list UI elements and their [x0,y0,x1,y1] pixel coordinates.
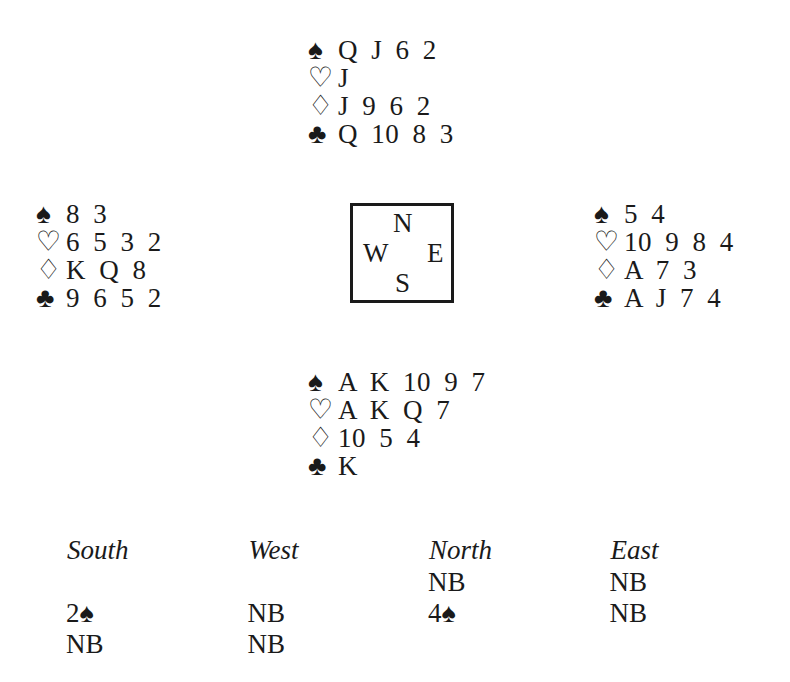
auction-row: 2♠ NB 4♠ NB [66,598,790,629]
compass-east: E [427,238,444,269]
bid: NB [66,629,247,660]
west-hand: ♠8 3 ♡6 5 3 2 ♢K Q 8 ♣9 6 5 2 [36,200,162,312]
south-clubs: K [338,452,358,480]
heart-icon: ♡ [36,228,66,256]
compass-west: W [363,238,388,269]
north-hand: ♠Q J 6 2 ♡J ♢J 9 6 2 ♣Q 10 8 3 [308,36,454,148]
north-hearts: J [338,64,349,92]
club-icon: ♣ [308,120,338,148]
diamond-icon: ♢ [308,92,338,120]
north-diamonds: J 9 6 2 [338,92,431,120]
bid [66,567,247,598]
east-clubs: A J 7 4 [624,284,721,312]
bid: 4♠ [428,598,610,629]
bid: NB [610,598,790,629]
spade-icon: ♠ [308,36,338,64]
header-south: South [66,534,247,567]
auction-header: South West North East [66,534,790,567]
bid: NB [428,567,610,598]
auction-row: NB NB [66,629,790,660]
header-west: West [247,534,428,567]
east-hearts: 10 9 8 4 [624,228,734,256]
bid [428,629,610,660]
compass-box: N W E S [350,203,454,303]
heart-icon: ♡ [594,228,624,256]
auction-table: South West North East NB NB 2♠ NB 4♠ NB … [66,534,790,660]
diamond-icon: ♢ [308,424,338,452]
spade-icon: ♠ [594,200,624,228]
west-clubs: 9 6 5 2 [66,284,162,312]
diamond-icon: ♢ [594,256,624,284]
header-east: East [610,534,790,567]
west-hearts: 6 5 3 2 [66,228,162,256]
west-spades: 8 3 [66,200,107,228]
east-diamonds: A 7 3 [624,256,697,284]
header-north: North [428,534,610,567]
club-icon: ♣ [36,284,66,312]
club-icon: ♣ [308,452,338,480]
spade-icon: ♠ [308,368,338,396]
south-diamonds: 10 5 4 [338,424,421,452]
bid [247,567,428,598]
south-spades: A K 10 9 7 [338,368,486,396]
bid: NB [610,567,790,598]
heart-icon: ♡ [308,396,338,424]
west-diamonds: K Q 8 [66,256,147,284]
heart-icon: ♡ [308,64,338,92]
east-spades: 5 4 [624,200,665,228]
south-hearts: A K Q 7 [338,396,450,424]
compass-north: N [393,208,413,239]
south-hand: ♠A K 10 9 7 ♡A K Q 7 ♢10 5 4 ♣K [308,368,486,480]
compass-south: S [395,268,410,299]
bid: NB [247,629,428,660]
east-hand: ♠5 4 ♡10 9 8 4 ♢A 7 3 ♣A J 7 4 [594,200,734,312]
diamond-icon: ♢ [36,256,66,284]
bid: 2♠ [66,598,247,629]
club-icon: ♣ [594,284,624,312]
spade-icon: ♠ [36,200,66,228]
auction-row: NB NB [66,567,790,598]
north-spades: Q J 6 2 [338,36,437,64]
north-clubs: Q 10 8 3 [338,120,454,148]
bid [610,629,790,660]
bid: NB [247,598,428,629]
